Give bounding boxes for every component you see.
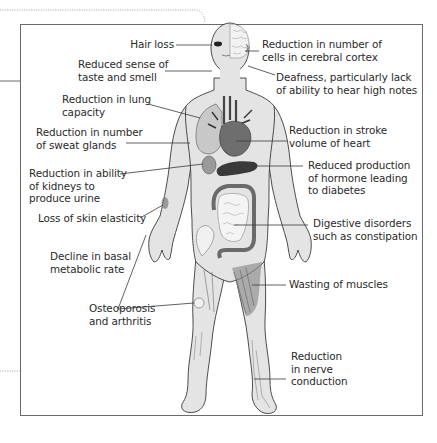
label-hormone-diabetes: Reduced production of hormone leading to… <box>308 159 410 197</box>
label-basal-metabolic-rate: Decline in basal metabolic rate <box>50 250 131 275</box>
label-digestive-disorders: Digestive disorders such as constipation <box>313 217 418 242</box>
eye-icon <box>214 42 222 47</box>
label-skin-elasticity: Loss of skin elasticity <box>38 212 146 225</box>
ageing-body-diagram: Hair loss Reduced sense of taste and sme… <box>0 0 437 443</box>
label-hair-loss: Hair loss <box>118 38 174 51</box>
label-nerve-conduction: Reduction in nerve conduction <box>291 350 347 388</box>
knee-joint <box>194 298 204 308</box>
label-deafness: Deafness, particularly lack of ability t… <box>276 71 417 96</box>
kidney <box>202 156 216 174</box>
label-muscle-wasting: Wasting of muscles <box>289 278 388 291</box>
skin-patch <box>162 197 169 209</box>
label-sweat-glands: Reduction in number of sweat glands <box>36 126 143 151</box>
label-kidneys: Reduction in ability of kidneys to produ… <box>29 167 127 205</box>
label-stroke-volume: Reduction in stroke volume of heart <box>289 124 387 149</box>
neck <box>220 68 240 84</box>
label-taste-smell: Reduced sense of taste and smell <box>78 58 168 83</box>
label-cerebral-cortex: Reduction in number of cells in cerebral… <box>262 38 382 63</box>
label-lung-capacity: Reduction in lung capacity <box>62 93 151 118</box>
label-osteoporosis: Osteoporosis and arthritis <box>89 302 155 327</box>
